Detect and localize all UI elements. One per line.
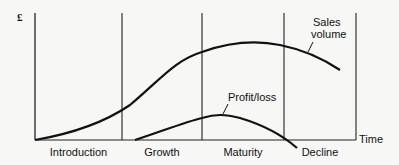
stage-label-decline: Decline — [284, 146, 356, 158]
stage-label-maturity: Maturity — [202, 146, 284, 158]
y-axis-label: £ — [17, 12, 23, 23]
profit-loss-curve — [135, 115, 297, 148]
stage-label-growth: Growth — [122, 146, 202, 158]
time-axis-label: Time — [359, 134, 383, 145]
sales-volume-curve — [35, 42, 340, 140]
sales-volume-label-line2: volume — [311, 29, 346, 40]
sales-volume-label-line1: Sales — [313, 17, 341, 28]
sales-volume-leader — [308, 42, 313, 52]
profit-loss-leader — [223, 104, 228, 114]
profit-loss-label: Profit/loss — [228, 92, 276, 103]
stage-label-introduction: Introduction — [35, 146, 122, 158]
